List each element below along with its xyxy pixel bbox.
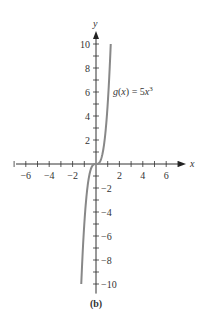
y-axis-label: y [92, 18, 98, 29]
y-tick-label: −2 [101, 183, 112, 194]
x-tick-label: −4 [44, 170, 55, 181]
y-tick-label: −10 [101, 279, 117, 290]
x-axis-label: x [189, 158, 195, 169]
y-tick-label: 2 [85, 135, 90, 146]
y-tick-label: 6 [85, 87, 90, 98]
chart: xy−6−4−2246−10−8−6−4−2246810g(x) = 5x3(b… [0, 0, 201, 323]
y-tick-label: −4 [101, 207, 112, 218]
x-tick-label: −2 [67, 170, 78, 181]
y-tick-label: 4 [85, 111, 90, 122]
x-tick-label: 2 [117, 170, 122, 181]
function-label: g(x) = 5x3 [113, 85, 153, 98]
y-tick-label: 10 [80, 39, 90, 50]
y-tick-label: −8 [101, 255, 112, 266]
x-axis-arrow-icon [178, 161, 186, 167]
y-axis-arrow-icon [93, 31, 99, 39]
y-tick-label: −6 [101, 231, 112, 242]
caption: (b) [90, 298, 102, 310]
x-tick-label: −6 [20, 170, 31, 181]
x-tick-label: 6 [164, 170, 169, 181]
x-tick-label: 4 [140, 170, 145, 181]
y-tick-label: 8 [85, 63, 90, 74]
